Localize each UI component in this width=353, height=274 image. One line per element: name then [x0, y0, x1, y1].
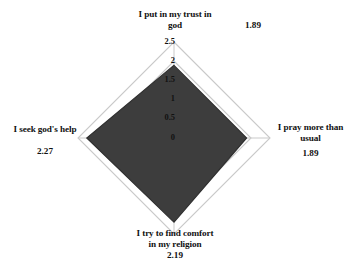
radar-chart: 2.5 2 1.5 1 0.5 0 I put in my trust in g… — [0, 0, 353, 274]
tick-label-0-5: 0.5 — [153, 113, 175, 122]
tick-label-1-5: 1.5 — [153, 75, 175, 84]
axis-value-pray-more: 1.89 — [268, 148, 353, 159]
axis-value-find-comfort: 2.19 — [108, 250, 242, 261]
data-series-polygon — [87, 65, 247, 222]
axis-label-trust-in-god: I put in my trust in god — [110, 9, 240, 31]
axis-label-pray-more: I pray more than usual — [268, 122, 353, 144]
tick-label-0: 0 — [153, 133, 175, 142]
tick-label-2: 2 — [153, 56, 175, 65]
axis-label-seek-gods-help: I seek god's help — [2, 124, 88, 135]
axis-value-trust-in-god: 1.89 — [226, 20, 280, 31]
axis-value-seek-gods-help: 2.27 — [2, 146, 88, 157]
axis-label-find-comfort: I try to find comfort in my religion — [108, 228, 242, 250]
tick-label-2-5: 2.5 — [153, 37, 175, 46]
tick-label-1: 1 — [153, 94, 175, 103]
